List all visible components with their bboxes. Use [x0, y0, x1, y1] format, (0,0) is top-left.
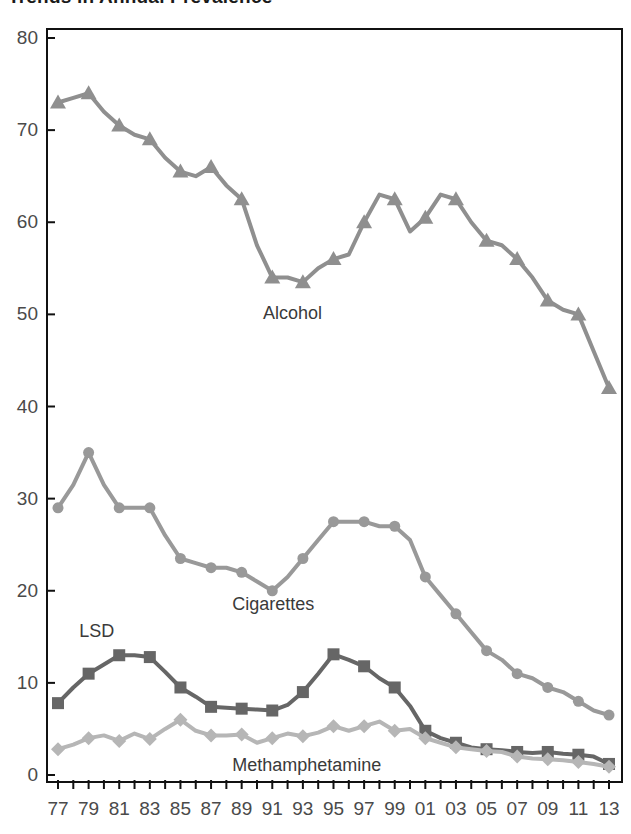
data-point [297, 553, 308, 564]
chart-container: Trends in Annual Prevalence 010203040506… [0, 0, 631, 834]
x-axis-tick-label: 07 [502, 799, 532, 818]
y-axis-tick-label: 0 [4, 765, 38, 784]
data-point [83, 668, 95, 680]
x-axis-tick-label: 83 [135, 799, 165, 818]
x-axis-tick-label: 99 [380, 799, 410, 818]
x-axis-tick-label: 81 [104, 799, 134, 818]
data-point [481, 645, 492, 656]
data-point [356, 214, 372, 228]
chart-svg [0, 0, 631, 834]
data-point [327, 719, 341, 733]
data-point [542, 682, 553, 693]
series-cigarettes [53, 447, 615, 721]
data-point [175, 553, 186, 564]
data-point [51, 742, 65, 756]
data-point [52, 697, 64, 709]
series-line [58, 654, 609, 764]
x-axis-tick-label: 11 [563, 799, 593, 818]
series-label-alcohol: Alcohol [263, 304, 322, 322]
data-point [328, 648, 340, 660]
series-line [58, 453, 609, 716]
data-point [389, 681, 401, 693]
series-label-lsd: LSD [79, 622, 114, 640]
series-label-cigarettes: Cigarettes [232, 595, 314, 613]
data-point [113, 649, 125, 661]
data-point [328, 516, 339, 527]
series-label-methamphetamine: Methamphetamine [232, 756, 381, 774]
data-point [83, 447, 94, 458]
x-axis-tick-label: 01 [410, 799, 440, 818]
x-axis-tick-label: 09 [533, 799, 563, 818]
data-point [266, 705, 278, 717]
y-axis-tick-label: 30 [4, 489, 38, 508]
data-point [420, 571, 431, 582]
data-point [112, 734, 126, 748]
data-point [450, 608, 461, 619]
data-point [144, 651, 156, 663]
data-point [389, 521, 400, 532]
x-axis-tick-label: 03 [441, 799, 471, 818]
x-axis-tick-label: 85 [165, 799, 195, 818]
data-point [174, 681, 186, 693]
data-point [236, 567, 247, 578]
y-axis-tick-label: 20 [4, 581, 38, 600]
y-axis-tick-label: 70 [4, 120, 38, 139]
data-point [82, 731, 96, 745]
x-axis-tick-label: 79 [74, 799, 104, 818]
series-line [58, 93, 609, 388]
data-point [573, 696, 584, 707]
x-axis-tick-label: 89 [227, 799, 257, 818]
data-point [357, 719, 371, 733]
data-point [53, 502, 64, 513]
y-axis-tick-label: 50 [4, 304, 38, 323]
y-axis-tick-label: 80 [4, 28, 38, 47]
y-axis-tick-label: 10 [4, 673, 38, 692]
x-axis-tick-label: 97 [349, 799, 379, 818]
x-axis-tick-label: 95 [319, 799, 349, 818]
y-axis-tick-label: 60 [4, 212, 38, 231]
data-point [205, 701, 217, 713]
y-axis-tick-label: 40 [4, 397, 38, 416]
x-axis-tick-label: 93 [288, 799, 318, 818]
data-point [297, 686, 309, 698]
data-point [512, 668, 523, 679]
data-point [601, 380, 617, 394]
data-point [265, 731, 279, 745]
data-point [206, 562, 217, 573]
data-point [604, 710, 615, 721]
data-point [144, 502, 155, 513]
series-alcohol [50, 85, 617, 394]
data-point [358, 660, 370, 672]
data-point [114, 502, 125, 513]
data-point [296, 729, 310, 743]
x-axis-tick-label: 77 [43, 799, 73, 818]
series-lsd [52, 648, 615, 770]
x-axis-tick-label: 13 [594, 799, 624, 818]
x-axis-tick-label: 91 [257, 799, 287, 818]
data-point [359, 516, 370, 527]
data-point [203, 159, 219, 173]
x-axis-tick-label: 05 [472, 799, 502, 818]
data-point [204, 728, 218, 742]
data-point [236, 703, 248, 715]
data-point [81, 85, 97, 99]
x-axis-tick-label: 87 [196, 799, 226, 818]
